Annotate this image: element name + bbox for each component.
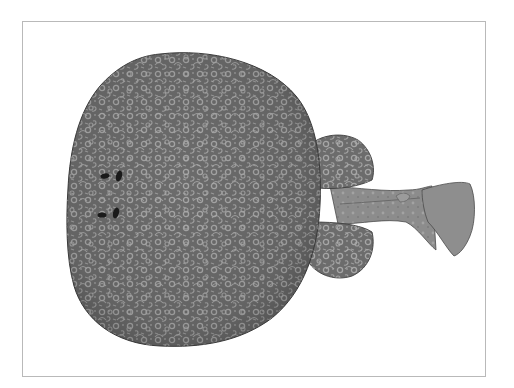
electric-ray-illustration <box>0 0 514 388</box>
image-canvas: Grayscale illustration of a round-bodied… <box>0 0 514 388</box>
right-eye-icon <box>98 212 107 217</box>
body-disc <box>67 53 321 347</box>
